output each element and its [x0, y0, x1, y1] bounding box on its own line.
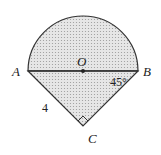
- label-b: B: [143, 64, 151, 79]
- geometry-figure: A B O C 4 45°: [0, 0, 161, 155]
- label-c: C: [88, 131, 97, 146]
- side-length-label: 4: [42, 101, 48, 115]
- angle-label: 45°: [110, 75, 127, 89]
- label-o: O: [77, 54, 87, 69]
- center-point-o: [81, 69, 85, 73]
- label-a: A: [11, 64, 20, 79]
